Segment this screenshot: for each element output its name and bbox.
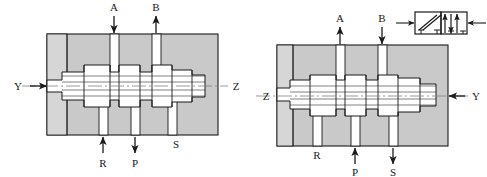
label-z-left: Y <box>14 80 22 92</box>
symbol-crossed-paths <box>419 15 441 30</box>
label-z-right: Z <box>263 90 270 102</box>
label-b-left: B <box>152 1 159 13</box>
label-p-right: P <box>352 166 358 177</box>
label-s-right: S <box>390 166 396 177</box>
label-b-right: B <box>378 12 385 24</box>
label-s-left: S <box>173 138 179 150</box>
symbol-parallel-arrows <box>445 14 457 33</box>
label-a-right: A <box>336 12 344 24</box>
label-y-left: Z <box>233 80 240 92</box>
label-r-left: R <box>99 157 107 169</box>
port-channel-a-left <box>110 34 119 75</box>
figure-canvas: Y Z A B R P S <box>0 0 487 177</box>
right-view: Z Y A B R P S <box>256 12 480 177</box>
label-p-left: P <box>132 157 138 169</box>
label-a-left: A <box>110 1 118 13</box>
label-r-right: R <box>313 149 321 161</box>
label-y-right: Y <box>472 90 480 102</box>
valve-schematic-symbol <box>396 12 486 34</box>
valve-drawing: Y Z A B R P S <box>0 0 487 177</box>
left-view: Y Z A B R P S <box>14 1 240 169</box>
